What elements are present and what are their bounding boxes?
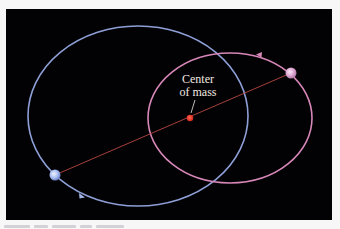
center-of-mass-label: Center of mass <box>163 73 233 99</box>
pink-star <box>286 68 297 79</box>
label-line-2: of mass <box>163 86 233 99</box>
label-pointer <box>191 100 195 113</box>
orbit-diagram <box>0 0 340 229</box>
center-of-mass-dot <box>187 115 194 122</box>
blue-star <box>50 170 61 181</box>
caption-cutoff <box>4 224 204 229</box>
blue-orbit <box>28 26 248 206</box>
